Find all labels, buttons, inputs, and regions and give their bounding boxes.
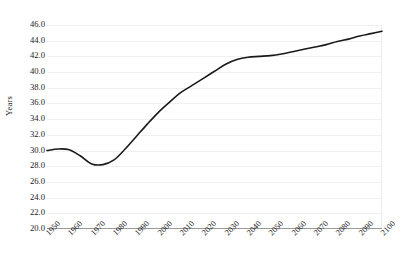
x-axis-tick-label: 2010 — [178, 219, 196, 237]
x-axis-tick-label: 2050 — [267, 219, 285, 237]
x-axis-tick-label: 2060 — [290, 219, 308, 237]
x-axis-tick-label-group: 1950196019701980199020002010202020302040… — [0, 0, 403, 257]
x-axis-tick-label: 1970 — [89, 219, 107, 237]
x-axis-tick-label: 1980 — [111, 219, 129, 237]
x-axis-tick-label: 2000 — [156, 219, 174, 237]
x-axis-tick-label: 1950 — [44, 219, 62, 237]
line-chart-figure: Years 46.044.042.040.038.036.034.032.030… — [0, 0, 403, 257]
x-axis-tick-label: 2070 — [312, 219, 330, 237]
x-axis-tick-label: 2020 — [200, 219, 218, 237]
x-axis-tick-label: 1960 — [66, 219, 84, 237]
x-axis-tick-label: 2090 — [357, 219, 375, 237]
x-axis-tick-label: 2100 — [379, 219, 397, 237]
x-axis-tick-label: 2080 — [334, 219, 352, 237]
x-axis-tick-label: 2040 — [245, 219, 263, 237]
x-axis-tick-label: 1990 — [133, 219, 151, 237]
x-axis-tick-label: 2030 — [223, 219, 241, 237]
